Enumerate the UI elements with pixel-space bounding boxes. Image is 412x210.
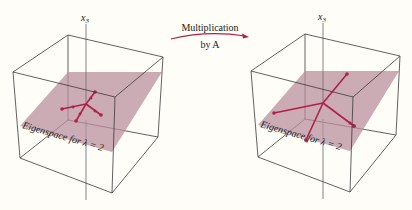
left-cube-diagram: x3 Eigenspace for λ = 2	[13, 12, 163, 200]
multiplication-arrow: Multiplication by A	[171, 22, 249, 50]
left-axis-label: x3	[80, 12, 89, 25]
right-cube-diagram: x3 Eigenspace for λ = 2	[251, 11, 400, 199]
eigenspace-figure: x3 Eigenspace for λ = 2 Multiplication b…	[0, 0, 412, 210]
right-axis-label: x3	[317, 11, 326, 24]
arrow-label-line1: Multiplication	[181, 22, 238, 33]
arrow-label-line2: by A	[200, 39, 220, 50]
